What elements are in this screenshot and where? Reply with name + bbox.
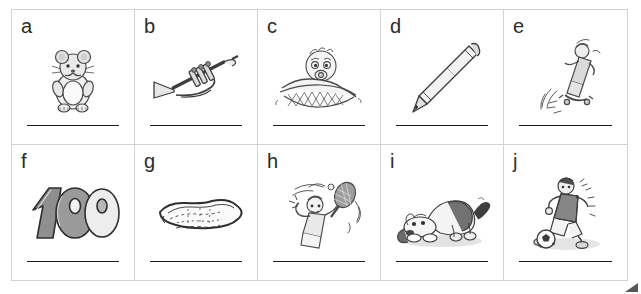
dog-icon [381, 171, 503, 257]
answer-line-a[interactable] [27, 125, 119, 126]
page-corner-mark [625, 283, 638, 292]
worksheet-cell-b[interactable]: b [135, 10, 258, 145]
pencil-icon [381, 36, 503, 122]
worksheet-cell-c[interactable]: c [258, 10, 381, 145]
puddle-icon [135, 171, 257, 257]
cell-label-f: f [21, 149, 27, 173]
worksheet-cell-a[interactable]: a [12, 10, 135, 145]
worksheet-cell-h[interactable]: h [258, 145, 381, 280]
hamster-icon [12, 36, 134, 122]
answer-line-d[interactable] [396, 125, 488, 126]
answer-line-f[interactable] [27, 261, 119, 262]
worksheet-page: a [0, 0, 641, 294]
answer-line-g[interactable] [150, 261, 242, 262]
worksheet-cell-g[interactable]: g [135, 145, 258, 280]
baby-icon [258, 36, 380, 122]
soccer-icon [504, 171, 627, 257]
cell-label-d: d [390, 14, 401, 38]
skateboard-icon [504, 36, 627, 122]
answer-line-b[interactable] [150, 125, 242, 126]
worksheet-cell-d[interactable]: d [381, 10, 504, 145]
hundred-icon [12, 171, 134, 257]
answer-line-c[interactable] [273, 125, 365, 126]
trumpet-icon [135, 36, 257, 122]
cell-label-g: g [144, 149, 155, 173]
answer-line-j[interactable] [519, 261, 612, 262]
answer-line-h[interactable] [273, 261, 365, 262]
answer-line-e[interactable] [519, 125, 612, 126]
cell-label-j: j [513, 149, 517, 173]
cell-label-e: e [513, 14, 524, 38]
cell-label-i: i [390, 149, 394, 173]
cell-label-c: c [267, 14, 277, 38]
cell-label-b: b [144, 14, 155, 38]
worksheet-cell-i[interactable]: i [381, 145, 504, 280]
worksheet-grid: a [11, 9, 628, 281]
cell-label-a: a [21, 14, 32, 38]
tennis-icon [258, 171, 380, 257]
worksheet-cell-j[interactable]: j [504, 145, 627, 280]
worksheet-cell-e[interactable]: e [504, 10, 627, 145]
answer-line-i[interactable] [396, 261, 488, 262]
worksheet-cell-f[interactable]: f [12, 145, 135, 280]
cell-label-h: h [267, 149, 278, 173]
